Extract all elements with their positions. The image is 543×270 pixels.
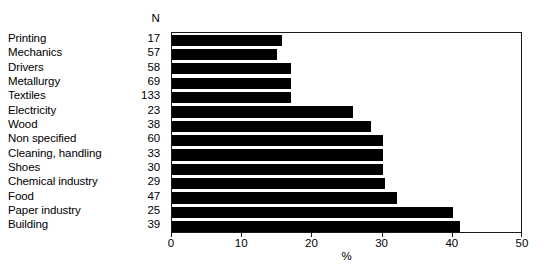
category-label: Textiles bbox=[8, 88, 118, 102]
bar-row bbox=[172, 76, 521, 90]
category-label: Wood bbox=[8, 117, 118, 131]
category-label: Drivers bbox=[8, 60, 118, 74]
bar-row bbox=[172, 133, 521, 147]
category-label: Chemical industry bbox=[8, 174, 118, 188]
n-value: 23 bbox=[118, 103, 160, 117]
n-value: 58 bbox=[118, 60, 160, 74]
n-value: 69 bbox=[118, 74, 160, 88]
n-value: 38 bbox=[118, 117, 160, 131]
x-axis-tick-label: 30 bbox=[375, 237, 388, 250]
x-axis-tick-label: 20 bbox=[305, 237, 318, 250]
bar bbox=[172, 221, 460, 232]
category-label: Metallurgy bbox=[8, 74, 118, 88]
n-value: 17 bbox=[118, 31, 160, 45]
bar bbox=[172, 178, 385, 189]
category-label: Paper industry bbox=[8, 203, 118, 217]
bar-row bbox=[172, 105, 521, 119]
x-axis-tick-label: 10 bbox=[235, 237, 248, 250]
bar-row bbox=[172, 191, 521, 205]
x-axis-tick-label: 50 bbox=[516, 237, 529, 250]
bar-row bbox=[172, 205, 521, 219]
category-label-column: PrintingMechanicsDriversMetallurgyTextil… bbox=[8, 31, 118, 232]
n-value: 29 bbox=[118, 174, 160, 188]
bar bbox=[172, 149, 383, 160]
bar-row bbox=[172, 162, 521, 176]
bar-row bbox=[172, 148, 521, 162]
category-label: Non specified bbox=[8, 131, 118, 145]
bar bbox=[172, 121, 371, 132]
bar-row bbox=[172, 219, 521, 233]
category-label: Printing bbox=[8, 31, 118, 45]
n-value: 30 bbox=[118, 160, 160, 174]
n-value: 39 bbox=[118, 217, 160, 231]
bar bbox=[172, 207, 453, 218]
bar-row bbox=[172, 90, 521, 104]
x-axis-title: % bbox=[171, 250, 522, 263]
category-label: Cleaning, handling bbox=[8, 146, 118, 160]
plot-area bbox=[171, 32, 522, 233]
n-value: 57 bbox=[118, 45, 160, 59]
bar bbox=[172, 63, 291, 74]
n-value: 25 bbox=[118, 203, 160, 217]
bar bbox=[172, 164, 383, 175]
category-label: Electricity bbox=[8, 103, 118, 117]
category-label: Shoes bbox=[8, 160, 118, 174]
bar-series bbox=[172, 33, 521, 232]
bar-row bbox=[172, 176, 521, 190]
bar bbox=[172, 35, 282, 46]
n-column-header: N bbox=[118, 12, 160, 24]
n-value: 33 bbox=[118, 146, 160, 160]
bar bbox=[172, 49, 277, 60]
bar bbox=[172, 106, 353, 117]
n-value: 47 bbox=[118, 189, 160, 203]
bar bbox=[172, 192, 397, 203]
n-value: 133 bbox=[118, 88, 160, 102]
x-axis-tick-label: 40 bbox=[445, 237, 458, 250]
x-axis-tick-label: 0 bbox=[168, 237, 174, 250]
bar bbox=[172, 135, 383, 146]
bar-row bbox=[172, 33, 521, 47]
x-axis-tick-labels: 01020304050 bbox=[171, 237, 522, 251]
n-value-column: 17575869133233860333029472539 bbox=[118, 31, 160, 232]
bar-row bbox=[172, 119, 521, 133]
bar-row bbox=[172, 47, 521, 61]
n-value: 60 bbox=[118, 131, 160, 145]
bar bbox=[172, 78, 291, 89]
category-label: Building bbox=[8, 217, 118, 231]
bar-row bbox=[172, 62, 521, 76]
bar-chart: N PrintingMechanicsDriversMetallurgyText… bbox=[0, 0, 543, 270]
category-label: Mechanics bbox=[8, 45, 118, 59]
bar bbox=[172, 92, 291, 103]
category-label: Food bbox=[8, 189, 118, 203]
